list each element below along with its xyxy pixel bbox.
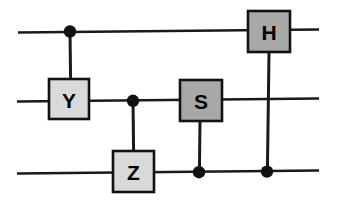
- control-line-z: [133, 100, 134, 152]
- gate-label-z: Z: [127, 161, 140, 184]
- control-line-h: [267, 52, 269, 172]
- control-dot-s[interactable]: [193, 166, 205, 178]
- control-line-s: [199, 121, 200, 172]
- control-line-y: [70, 31, 71, 80]
- gate-label-h: H: [261, 21, 276, 44]
- gate-label-y: Y: [62, 89, 76, 112]
- gate-label-s: S: [194, 90, 208, 113]
- gate-labels: Y Z S H: [62, 21, 277, 185]
- qubit-wire-3: [17, 171, 319, 174]
- control-dot-y[interactable]: [64, 25, 76, 37]
- control-dot-z[interactable]: [127, 95, 139, 107]
- gate-boxes: [49, 11, 290, 192]
- quantum-circuit-figure: Y Z S H: [0, 0, 337, 205]
- circuit-canvas: Y Z S H: [0, 0, 337, 205]
- control-dot-h[interactable]: [261, 165, 273, 177]
